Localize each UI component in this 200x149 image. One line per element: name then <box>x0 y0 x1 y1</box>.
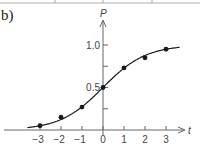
data-point <box>101 85 106 90</box>
data-point <box>164 47 169 52</box>
x-tick-label: −2 <box>53 134 65 145</box>
data-point <box>143 55 148 60</box>
data-point <box>38 123 43 128</box>
data-point <box>80 105 85 110</box>
table-remnant <box>0 0 200 3</box>
y-tick-label: 0.5 <box>86 82 100 93</box>
y-tick-label: 1.0 <box>86 40 100 51</box>
x-tick-label: 2 <box>142 134 148 145</box>
x-tick-label: −1 <box>74 134 86 145</box>
x-tick-label: 3 <box>163 134 169 145</box>
sigmoid-chart: −3−2−101230.51.0tP <box>0 0 200 149</box>
axes: −3−2−101230.51.0tP <box>4 8 192 145</box>
x-tick-label: 1 <box>121 134 127 145</box>
data-point <box>59 115 64 120</box>
x-tick-label: −3 <box>32 134 44 145</box>
x-tick-label: 0 <box>100 134 106 145</box>
data-point <box>122 66 127 71</box>
y-axis-label: P <box>100 8 107 19</box>
x-axis-label: t <box>188 125 192 136</box>
